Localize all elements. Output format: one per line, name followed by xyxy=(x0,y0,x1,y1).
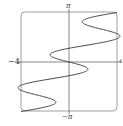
y-max-label: π xyxy=(66,3,71,10)
x-max-label: 4 xyxy=(119,59,122,64)
y-min-label: −π xyxy=(62,114,72,121)
x-min-label: −4 xyxy=(8,58,20,66)
